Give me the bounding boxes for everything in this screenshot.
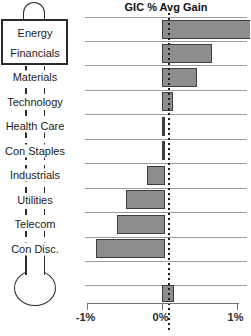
dotted-reference-line — [168, 13, 170, 330]
gridline — [85, 114, 247, 115]
thermometer-label-technology: Technology — [5, 95, 65, 108]
thermometer-label-materials: Materials — [11, 71, 60, 84]
thermometer-bulb-opening — [27, 266, 44, 277]
x-axis-line — [88, 303, 240, 305]
thermometer-label-energy: Energy — [16, 27, 55, 40]
bar-materials — [162, 68, 197, 87]
thermometer-label-utilities: Utilities — [15, 193, 54, 206]
thermometer-stem-right-solid-line — [44, 258, 46, 275]
x-axis-tick — [87, 303, 89, 310]
gridline — [85, 90, 247, 91]
x-axis-tick-label: -1% — [76, 311, 96, 323]
bar-technology — [162, 92, 173, 111]
gridline — [85, 212, 247, 213]
bar-con-staples — [162, 141, 165, 160]
gridline — [85, 139, 247, 140]
thermometer-label-industrials: Industrials — [8, 169, 62, 182]
bar-health-care — [162, 117, 165, 136]
thermometer-label-con-disc: Con Disc. — [9, 242, 61, 255]
gridline — [85, 17, 247, 18]
gridline — [85, 41, 247, 42]
sector-thermometer-chart: EnergyFinancialsMaterialsTechnologyHealt… — [0, 0, 250, 336]
gridline — [85, 188, 247, 189]
bar-utilities — [126, 190, 165, 209]
thermometer-label-financials: Financials — [8, 46, 62, 59]
gridline — [85, 65, 247, 66]
x-axis-tick-label: 1% — [228, 311, 244, 323]
thermometer-top-arch — [23, 2, 45, 20]
x-axis-tick-label: 0% — [153, 311, 169, 323]
bar-industrials — [147, 166, 165, 185]
bar-telecom — [117, 215, 165, 234]
x-axis-tick — [237, 303, 239, 310]
gridline — [85, 237, 247, 238]
thermometer-label-con-staples: Con Staples — [3, 144, 67, 157]
thermometer-label-health-care: Health Care — [4, 120, 67, 133]
thermometer-label-telecom: Telecom — [13, 218, 58, 231]
x-axis-tick — [162, 303, 164, 310]
chart-title: GIC % Avg Gain — [85, 1, 247, 13]
gridline — [85, 163, 247, 164]
gridline — [85, 261, 247, 262]
bar-energy — [162, 20, 251, 39]
bar-con-disc — [96, 239, 165, 258]
thermometer-stem-left-solid-line — [25, 258, 27, 275]
